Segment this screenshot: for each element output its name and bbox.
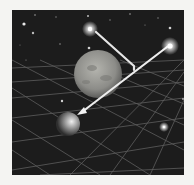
space-illustration [12, 10, 184, 175]
large-planet [74, 50, 122, 98]
small-planet [56, 112, 80, 136]
